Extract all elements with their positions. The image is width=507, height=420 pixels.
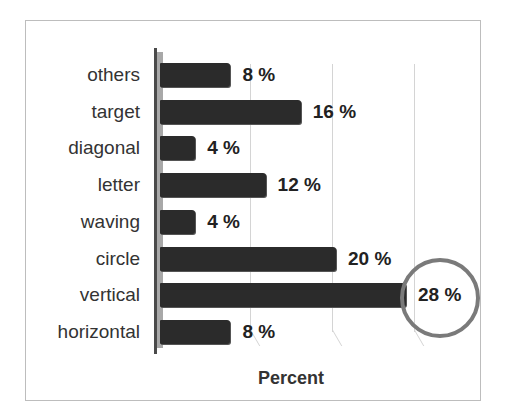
- value-label: 4 %: [207, 137, 240, 159]
- category-label: circle: [96, 248, 140, 270]
- category-label: diagonal: [68, 137, 140, 159]
- category-label: others: [87, 64, 140, 86]
- category-label: target: [91, 101, 140, 123]
- highlight-circle: [400, 258, 480, 338]
- y-axis: [154, 48, 157, 354]
- value-label: 4 %: [207, 211, 240, 233]
- bar: [160, 210, 195, 234]
- value-label: 8 %: [242, 64, 275, 86]
- bar: [160, 283, 406, 307]
- value-label: 20 %: [348, 248, 391, 270]
- bar: [160, 173, 266, 197]
- bar: [160, 100, 301, 124]
- bar: [160, 247, 336, 271]
- category-label: horizontal: [58, 321, 140, 343]
- value-label: 16 %: [313, 101, 356, 123]
- bar: [160, 63, 230, 87]
- bar: [160, 136, 195, 160]
- x-axis-label: Percent: [258, 368, 324, 389]
- category-label: letter: [98, 174, 140, 196]
- category-label: vertical: [80, 284, 140, 306]
- bar: [160, 320, 230, 344]
- category-label: waving: [81, 211, 140, 233]
- value-label: 8 %: [242, 321, 275, 343]
- value-label: 12 %: [278, 174, 321, 196]
